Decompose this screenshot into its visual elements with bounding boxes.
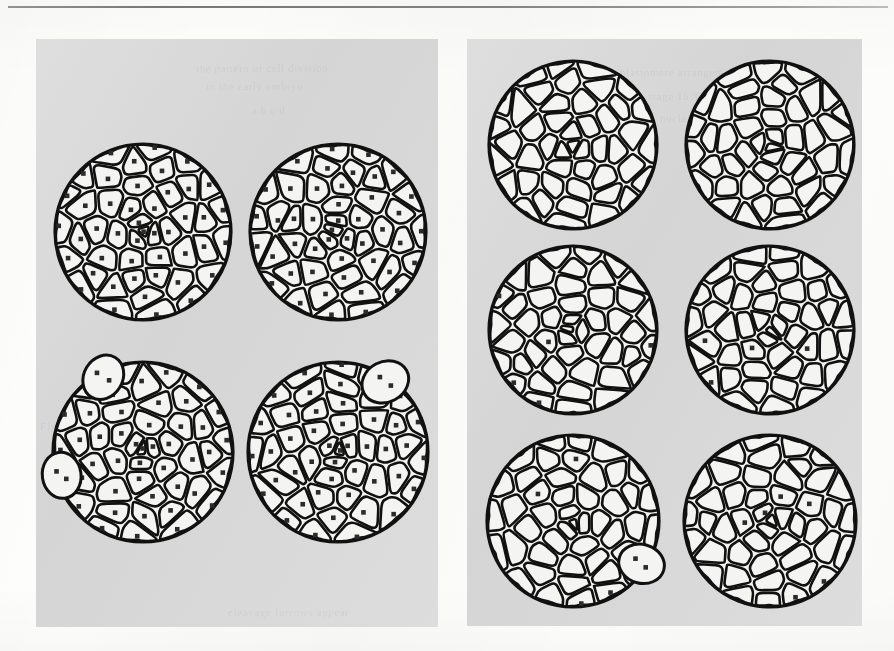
nucleus-marker (315, 186, 320, 191)
circle-right-middle-left (471, 228, 675, 432)
nucleus-marker (134, 442, 139, 447)
nucleus-marker (158, 255, 163, 260)
nucleus-marker (119, 410, 124, 415)
circle-right-bottom-left (469, 417, 677, 625)
cell (723, 482, 745, 509)
nucleus-marker (166, 230, 171, 235)
nucleus-marker (135, 184, 140, 189)
nucleus-marker (97, 434, 102, 439)
nucleus-marker (371, 258, 376, 263)
nucleus-marker (202, 215, 207, 220)
cell (779, 280, 805, 302)
nucleus-marker (312, 428, 317, 433)
nucleus-marker (270, 281, 275, 286)
nucleus-marker (129, 208, 134, 213)
nucleus-marker (100, 526, 105, 531)
nucleus-marker (207, 182, 212, 187)
nucleus-marker (341, 401, 346, 406)
nucleus-marker (261, 491, 266, 496)
nucleus-marker (156, 400, 161, 405)
cell (785, 125, 803, 150)
nucleus-marker (152, 145, 157, 150)
nucleus-marker (90, 462, 95, 467)
circle-right-bottom-right (666, 417, 874, 625)
nucleus-marker (77, 504, 82, 509)
circle-right-top-right (668, 43, 872, 247)
nucleus-marker (327, 443, 332, 448)
nucleus-marker (95, 371, 100, 376)
cell (103, 401, 135, 422)
nucleus-marker (183, 251, 188, 256)
nucleus-marker (419, 229, 424, 234)
nucleus-marker (340, 184, 345, 189)
nucleus-marker (166, 442, 171, 447)
page-top-rule (8, 6, 888, 8)
nucleus-marker (359, 290, 364, 295)
cell (716, 176, 738, 196)
nucleus-marker (309, 459, 314, 464)
nucleus-marker (197, 385, 202, 390)
nucleus-marker (293, 470, 298, 475)
nucleus-marker (111, 284, 116, 289)
nucleus-marker (285, 518, 290, 523)
bleed-text: cleavage furrows appear (228, 606, 349, 618)
nucleus-marker (79, 237, 84, 242)
cell-group (687, 62, 853, 228)
nucleus-marker (164, 370, 169, 375)
nucleus-marker (108, 201, 113, 206)
nucleus-marker (338, 382, 343, 387)
nucleus-marker (360, 241, 365, 246)
nucleus-marker (161, 466, 166, 471)
nucleus-marker (372, 174, 377, 179)
nucleus-marker (141, 229, 146, 234)
nucleus-marker (338, 448, 343, 453)
nucleus-marker (135, 534, 140, 539)
nucleus-marker (537, 400, 542, 405)
nucleus-marker (345, 444, 350, 449)
nucleus-marker (185, 159, 190, 164)
nucleus-marker (763, 511, 768, 516)
nucleus-marker (77, 438, 82, 443)
nucleus-marker (113, 489, 118, 494)
nucleus-marker (116, 458, 121, 463)
cell (735, 97, 760, 117)
nucleus-marker (154, 273, 159, 278)
nucleus-marker (143, 295, 148, 300)
nucleus-marker (346, 493, 351, 498)
nucleus-marker (64, 477, 69, 482)
nucleus-marker (391, 170, 396, 175)
nucleus-marker (138, 461, 143, 466)
nucleus-marker (352, 468, 357, 473)
nucleus-marker (310, 270, 315, 275)
nucleus-marker (79, 287, 84, 292)
nucleus-marker (313, 533, 318, 538)
cell (594, 389, 629, 410)
nucleus-marker (497, 294, 502, 299)
nucleus-marker (273, 478, 278, 483)
nucleus-marker (151, 444, 156, 449)
nucleus-marker (188, 298, 193, 303)
nucleus-marker (292, 216, 297, 221)
cell (270, 403, 299, 426)
cell (559, 295, 586, 312)
nucleus-marker (137, 221, 142, 226)
nucleus-marker (329, 312, 334, 317)
nucleus-marker (152, 206, 157, 211)
bleed-text: in the early embryo (206, 80, 303, 93)
cell-group (490, 247, 656, 413)
cell (742, 362, 770, 378)
cell (685, 502, 697, 526)
nucleus-marker (216, 410, 221, 415)
cell (579, 513, 590, 534)
nucleus-marker (709, 380, 714, 385)
nucleus-marker (778, 494, 783, 499)
nucleus-marker (330, 147, 335, 152)
nucleus-marker (648, 343, 653, 348)
nucleus-marker (207, 450, 212, 455)
nucleus-marker (336, 218, 341, 223)
nucleus-marker (250, 454, 255, 459)
nucleus-marker (113, 510, 118, 515)
nucleus-marker (387, 270, 392, 275)
nucleus-marker (160, 169, 165, 174)
nucleus-marker (83, 203, 88, 208)
